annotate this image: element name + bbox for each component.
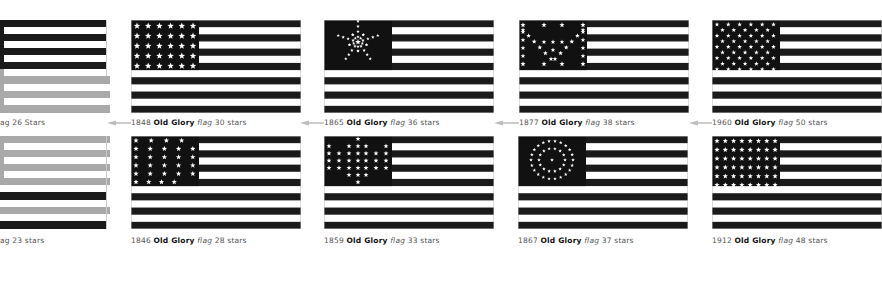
flag-1865-36-stars: [324, 20, 494, 113]
arrow-left-icon: [689, 119, 712, 127]
caption-1877: 1877 Old Glory flag 38 stars: [519, 118, 635, 127]
flag-1867-37-stars: [518, 136, 688, 229]
arrow-left-icon: [300, 119, 324, 127]
caption-partial-23: ag 23 stars: [0, 236, 44, 245]
caption-1865: 1865 Old Glory flag 36 stars: [324, 118, 440, 127]
partial-flag-23-stars: [0, 136, 110, 229]
arrow-left-icon: [107, 119, 131, 127]
caption-1859: 1859 Old Glory flag 33 stars: [324, 236, 440, 245]
arrow-left-icon: [494, 119, 519, 127]
flag-1859-33-stars: [324, 136, 494, 229]
caption-1867: 1867 Old Glory flag 37 stars: [518, 236, 634, 245]
flag-1846-28-stars: [131, 136, 301, 229]
flag-1848-30-stars: [131, 20, 301, 113]
partial-flag-26-stars: [0, 20, 110, 113]
caption-partial-26: ag 26 Stars: [0, 118, 45, 127]
flag-1912-48-stars: [712, 136, 882, 229]
caption-1848: 1848 Old Glory flag 30 stars: [131, 118, 247, 127]
flag-1877-38-stars: [519, 20, 689, 113]
caption-1912: 1912 Old Glory flag 48 stars: [712, 236, 828, 245]
caption-1960: 1960 Old Glory flag 50 stars: [712, 118, 828, 127]
caption-1846: 1846 Old Glory flag 28 stars: [131, 236, 247, 245]
flag-1960-50-stars: [712, 20, 882, 113]
